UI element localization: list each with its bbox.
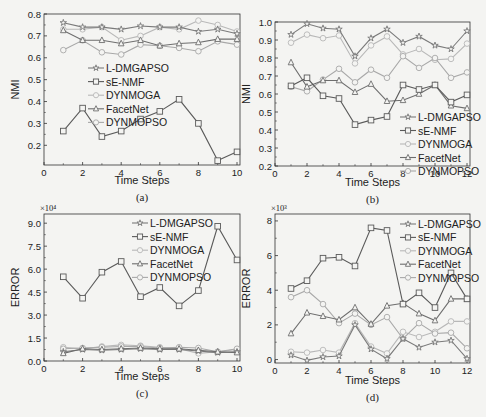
x-tick-label: 10	[430, 365, 441, 376]
legend: L-DMGAPSOsE-NMFDYNMOGAFacetNetDYNMOPSO	[400, 218, 481, 284]
legend-label: DYNMOPSO	[418, 272, 479, 284]
series-se-nmf	[61, 97, 240, 164]
y-tick-label: 0.7	[28, 30, 41, 41]
legend-item: FacetNet	[400, 152, 461, 164]
y-tick-label: 0.2	[259, 161, 272, 172]
legend: L-DMGAPSOsE-NMFDYNMOGAFacetNetDYNMOPSO	[400, 111, 481, 177]
y-axis-label: NMI	[9, 79, 21, 99]
x-axis-label: Time Steps	[114, 174, 170, 186]
x-axis-label: Time Steps	[345, 374, 401, 386]
legend-label: DYNMOGA	[418, 245, 472, 257]
legend-label: FacetNet	[150, 258, 193, 270]
chart-panel-c: 0.01.53.04.56.07.59.00246810Time StepsER…	[9, 203, 242, 400]
legend-item: DYNMOGA	[88, 89, 160, 101]
y-tick-label: 0.0	[28, 356, 41, 367]
x-tick-label: 2	[304, 168, 309, 179]
series-l-dmgapso	[60, 19, 240, 36]
x-tick-label: 2	[304, 365, 309, 376]
y-tick-label: 0.9	[259, 35, 272, 46]
y-tick-label: 0.6	[259, 89, 272, 100]
y-tick-label: 0	[267, 354, 272, 365]
y-tick-label: 4	[267, 285, 272, 296]
y-tick-label: 7.5	[28, 241, 41, 252]
legend-item: FacetNet	[132, 258, 193, 270]
x-tick-label: 8	[196, 167, 201, 178]
legend-label: DYNMOGA	[418, 138, 472, 150]
figure-canvas: 0.20.30.40.50.60.70.80246810Time StepsNM…	[0, 0, 486, 417]
legend-label: sE-NMF	[418, 125, 457, 137]
legend-item: DYNMOPSO	[400, 272, 479, 284]
x-tick-label: 2	[80, 363, 85, 374]
panel-caption: (d)	[366, 391, 379, 404]
legend-label: FacetNet	[418, 152, 461, 164]
y-tick-label: 4.5	[28, 287, 41, 298]
x-tick-label: 8	[400, 168, 405, 179]
y-tick-label: 6	[267, 250, 272, 261]
y-axis-exponent: ×10⁴	[40, 203, 56, 213]
x-tick-label: 0	[41, 167, 46, 178]
panel-caption: (b)	[366, 193, 379, 206]
chart-panel-a: 0.20.30.40.50.60.70.80246810Time StepsNM…	[9, 9, 242, 205]
legend-item: sE-NMF	[132, 231, 189, 243]
legend-label: L-DMGAPSO	[418, 218, 481, 230]
y-tick-label: 0.8	[28, 9, 41, 20]
legend-item: L-DMGAPSO	[400, 111, 481, 123]
x-tick-label: 0	[272, 365, 277, 376]
y-tick-label: 3.0	[28, 310, 41, 321]
y-tick-label: 0.7	[259, 71, 272, 82]
y-tick-label: 9.0	[28, 218, 41, 229]
x-tick-label: 4	[336, 168, 341, 179]
chart-panel-d: 02468024681012Time StepsERROR×10³(d)L-DM…	[240, 203, 481, 404]
panel-caption: (c)	[136, 387, 149, 400]
legend-label: DYNMOPSO	[150, 271, 211, 283]
x-tick-label: 0	[272, 168, 277, 179]
legend-item: DYNMOGA	[400, 138, 472, 150]
y-tick-label: 0.2	[28, 140, 41, 151]
legend-label: DYNMOPSO	[106, 116, 167, 128]
legend-item: FacetNet	[400, 258, 461, 270]
chart-panel-b: 0.20.30.40.50.60.70.80.91.0024681012Time…	[240, 17, 481, 207]
y-axis-exponent: ×10³	[271, 203, 287, 213]
legend-item: DYNMOPSO	[132, 271, 211, 283]
series-facetnet	[288, 296, 470, 336]
x-tick-label: 8	[196, 363, 201, 374]
y-tick-label: 0.5	[28, 74, 41, 85]
y-tick-label: 0.5	[259, 107, 272, 118]
legend-label: L-DMGAPSO	[418, 111, 481, 123]
legend-label: FacetNet	[418, 258, 461, 270]
series-dynmoga	[288, 32, 470, 66]
legend-item: DYNMOPSO	[400, 165, 479, 177]
x-tick-label: 4	[336, 365, 341, 376]
y-tick-label: 1.0	[259, 17, 272, 28]
legend-item: DYNMOGA	[400, 245, 472, 257]
legend-item: DYNMOGA	[132, 244, 204, 256]
x-tick-label: 10	[232, 363, 243, 374]
legend-label: sE-NMF	[106, 76, 145, 88]
legend-item: L-DMGAPSO	[132, 217, 213, 229]
y-tick-label: 0.3	[28, 118, 41, 129]
series-l-dmgapso	[288, 321, 470, 363]
y-tick-label: 0.4	[28, 96, 41, 107]
y-tick-label: 2	[267, 319, 272, 330]
x-tick-label: 0	[41, 363, 46, 374]
y-axis-label: ERROR	[9, 268, 21, 308]
legend-label: DYNMOGA	[150, 244, 204, 256]
legend: L-DMGAPSOsE-NMFDYNMOGAFacetNetDYNMOPSO	[88, 62, 169, 128]
x-tick-label: 10	[232, 167, 243, 178]
y-tick-label: 0.4	[259, 125, 272, 136]
legend-label: DYNMOPSO	[418, 165, 479, 177]
panel-caption: (a)	[136, 191, 149, 204]
y-tick-label: 6.0	[28, 264, 41, 275]
series-l-dmgapso	[288, 20, 470, 59]
legend-item: sE-NMF	[88, 76, 145, 88]
legend-item: DYNMOPSO	[88, 116, 167, 128]
legend-item: FacetNet	[88, 103, 149, 115]
legend-item: sE-NMF	[400, 125, 457, 137]
x-axis-label: Time Steps	[345, 176, 401, 188]
y-axis-label: ERROR	[240, 269, 252, 309]
x-tick-label: 2	[80, 167, 85, 178]
x-tick-label: 8	[400, 365, 405, 376]
figure: 0.20.30.40.50.60.70.80246810Time StepsNM…	[0, 0, 486, 417]
y-tick-label: 8	[267, 215, 272, 226]
legend: L-DMGAPSOsE-NMFDYNMOGAFacetNetDYNMOPSO	[132, 217, 213, 283]
